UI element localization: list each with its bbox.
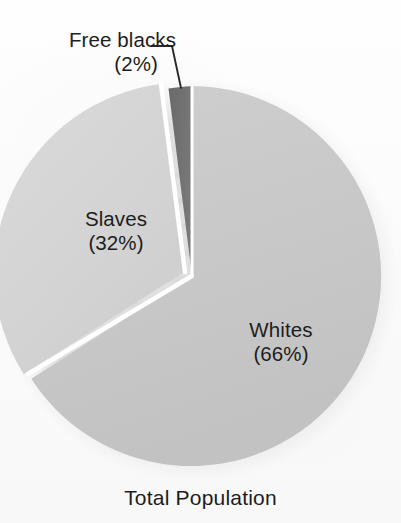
- pie-chart-graphic: [0, 0, 401, 523]
- slice-label-whites-value: (66%): [218, 342, 344, 366]
- pie-chart-figure: Free blacks (2%) Slaves (32%) Whites (66…: [0, 0, 401, 523]
- slice-label-slaves-name: Slaves: [56, 207, 176, 231]
- slice-label-whites: Whites (66%): [218, 318, 344, 366]
- slice-label-slaves: Slaves (32%): [56, 207, 176, 255]
- slice-label-whites-name: Whites: [218, 318, 344, 342]
- slice-label-free-blacks: Free blacks (2%): [16, 28, 176, 76]
- slice-label-free-blacks-value: (2%): [16, 52, 176, 76]
- chart-caption: Total Population: [0, 486, 401, 510]
- slice-label-free-blacks-name: Free blacks: [16, 28, 176, 52]
- slice-label-slaves-value: (32%): [56, 231, 176, 255]
